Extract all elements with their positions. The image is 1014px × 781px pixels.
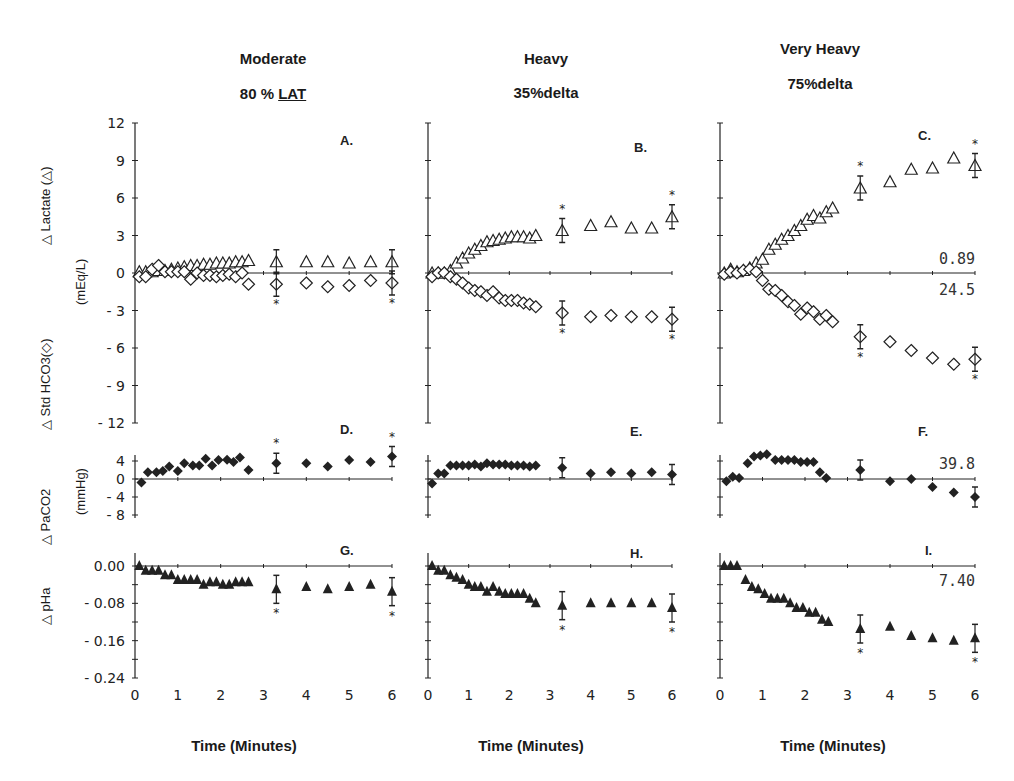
data-point (949, 488, 959, 498)
panel-label: D. (340, 422, 353, 437)
panel-label: C. (918, 128, 931, 143)
panel-label: E. (630, 424, 642, 439)
panel-b: B.**** (425, 123, 678, 423)
x-tick-label: 1 (173, 687, 182, 703)
data-point (366, 579, 376, 589)
data-point (531, 461, 541, 471)
significance-asterisk: * (972, 372, 978, 386)
data-point (366, 457, 376, 467)
data-point (173, 466, 183, 476)
y-tick-label: 0.00 (94, 558, 125, 574)
significance-asterisk: * (972, 137, 978, 151)
data-point (134, 560, 144, 570)
data-point (323, 583, 333, 593)
data-point (647, 597, 657, 607)
y-tick-label: 9 (116, 153, 125, 169)
significance-asterisk: * (559, 202, 565, 216)
data-point (885, 476, 895, 486)
panel-g: G.0.00- 0.08- 0.16- 0.240123456** (84, 543, 397, 703)
data-point (323, 461, 333, 471)
y-tick-label: - 0.16 (84, 633, 125, 649)
x-tick-label: 2 (505, 687, 514, 703)
data-point (949, 635, 959, 645)
data-point (948, 152, 960, 163)
panel-label: F. (918, 424, 928, 439)
panel-a: A.129630- 3- 6- 9- 12** (98, 115, 398, 431)
significance-asterisk: * (559, 326, 565, 340)
y-tick-label: - 6 (107, 340, 126, 356)
x-tick-label: 5 (345, 687, 354, 703)
data-point (476, 581, 486, 591)
x-tick-label: 2 (216, 687, 225, 703)
data-point (798, 602, 808, 612)
significance-asterisk: * (857, 350, 863, 364)
data-point (625, 311, 637, 323)
panel-h: H.0123456** (424, 546, 677, 703)
x-tick-label: 1 (464, 687, 473, 703)
significance-asterisk: * (559, 623, 565, 637)
data-point (906, 630, 916, 640)
x-tick-label: 4 (586, 687, 595, 703)
data-point (626, 597, 636, 607)
data-point (928, 632, 938, 642)
data-point (586, 469, 596, 479)
x-tick-label: 5 (928, 687, 937, 703)
data-point (815, 467, 825, 477)
baseline-label: 24.5 (939, 281, 975, 299)
data-point (827, 202, 839, 213)
data-point (300, 277, 312, 289)
data-point (906, 474, 916, 484)
data-point (928, 482, 938, 492)
data-point (192, 574, 202, 584)
data-point (905, 345, 917, 357)
data-point (743, 458, 753, 468)
panel-label: I. (925, 543, 932, 558)
data-point (488, 581, 498, 591)
data-point (948, 358, 960, 370)
x-tick-label: 1 (758, 687, 767, 703)
y-tick-label: 0 (116, 265, 125, 281)
x-tick-label: 0 (131, 687, 140, 703)
data-point (439, 469, 449, 479)
data-point (519, 588, 529, 598)
x-tick-label: 2 (801, 687, 810, 703)
data-point (885, 621, 895, 631)
x-tick-label: 6 (971, 687, 980, 703)
data-point (884, 336, 896, 348)
data-point (243, 278, 255, 290)
data-point (927, 162, 939, 173)
panel-label: H. (630, 546, 643, 561)
data-point (757, 253, 769, 264)
data-point (201, 454, 211, 464)
panel-i: I.01234567.40** (716, 543, 980, 703)
y-tick-label: - 0.08 (84, 595, 125, 611)
data-point (166, 569, 176, 579)
data-point (343, 257, 355, 268)
significance-asterisk: * (389, 296, 395, 310)
x-tick-label: 6 (388, 687, 397, 703)
significance-asterisk: * (669, 625, 675, 639)
data-point (646, 311, 658, 323)
data-point (322, 281, 334, 293)
data-point (605, 310, 617, 322)
significance-asterisk: * (972, 655, 978, 669)
data-point (626, 469, 636, 479)
x-tick-label: 4 (302, 687, 311, 703)
panel-f: F.39.8 (717, 424, 980, 518)
data-point (646, 222, 658, 233)
y-tick-label: - 0.24 (84, 670, 125, 686)
data-point (821, 473, 831, 483)
baseline-label: 0.89 (939, 250, 975, 268)
data-point (365, 275, 377, 287)
data-point (809, 457, 819, 467)
data-point (779, 593, 789, 603)
data-point (143, 467, 153, 477)
data-point (647, 467, 657, 477)
data-point (344, 581, 354, 591)
y-tick-label: - 8 (107, 507, 125, 523)
significance-asterisk: * (389, 609, 395, 623)
data-point (179, 458, 189, 468)
x-tick-label: 3 (259, 687, 268, 703)
y-tick-label: 0 (116, 471, 125, 487)
x-tick-label: 5 (627, 687, 636, 703)
